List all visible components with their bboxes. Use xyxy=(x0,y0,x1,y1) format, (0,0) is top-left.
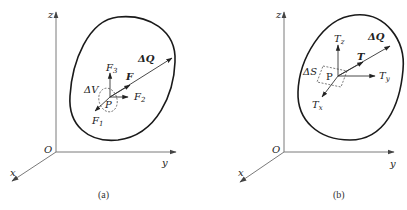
stress-vector xyxy=(338,62,363,76)
z-axis-label: z xyxy=(47,9,54,20)
caption-a: (a) xyxy=(98,189,109,201)
force-vector xyxy=(110,85,130,97)
x-axis-label: x xyxy=(10,167,16,178)
origin-label: O xyxy=(44,144,52,155)
component-y-label: Ty xyxy=(379,70,391,83)
figure: z y x O ΔQ F ΔV P F3 F2 F1 (a) z y x O xyxy=(0,0,407,210)
x-axis xyxy=(12,152,56,181)
caption-b: (b) xyxy=(333,189,345,201)
component-x-label: Tx xyxy=(312,99,323,112)
component-2-label: F2 xyxy=(133,91,146,104)
z-axis-label: z xyxy=(275,9,282,20)
point-label: P xyxy=(326,71,333,82)
resultant-label: ΔQ xyxy=(137,53,155,64)
resultant-label: ΔQ xyxy=(367,31,385,42)
panel-a: z y x O ΔQ F ΔV P F3 F2 F1 (a) xyxy=(10,9,176,201)
body-outline xyxy=(70,17,175,141)
force-label: F xyxy=(125,71,134,82)
component-z-label: Tz xyxy=(334,33,345,46)
point-label: P xyxy=(104,99,112,110)
component-1-label: F1 xyxy=(91,115,103,128)
origin-label: O xyxy=(272,144,280,155)
x-axis xyxy=(240,152,284,182)
element-label: ΔV xyxy=(83,84,100,95)
element-label: ΔS xyxy=(302,66,317,77)
panel-b: z y x O ΔQ T ΔS P Tz Ty Tx (b) xyxy=(238,9,403,201)
x-axis-label: x xyxy=(238,167,244,178)
y-axis-label: y xyxy=(389,158,396,169)
axes-a: z y x O xyxy=(10,9,176,181)
y-axis-label: y xyxy=(161,157,168,168)
component-3-label: F3 xyxy=(105,62,118,75)
